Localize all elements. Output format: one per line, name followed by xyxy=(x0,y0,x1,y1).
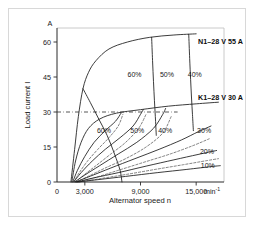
curve-n1-duty-60 xyxy=(83,89,122,182)
duty-upper-50: 50% xyxy=(160,71,174,78)
series-label-k1: K1–28 V 30 A xyxy=(198,93,243,102)
curve-k1-duty-50-dashed xyxy=(76,114,147,182)
duty-lower-40: 40% xyxy=(158,127,172,134)
x-axis-unit: min-1 xyxy=(204,186,220,196)
y-axis-unit: A xyxy=(48,19,53,28)
x-tick-label: 0 xyxy=(55,187,59,196)
curve-k1-duty-20 xyxy=(76,151,216,183)
x-tick-label: 9,000 xyxy=(132,187,150,196)
duty-upper-60: 60% xyxy=(128,71,142,78)
curve-k1-duty-10 xyxy=(77,166,220,182)
curve-n1-duty-40 xyxy=(189,34,194,130)
y-axis-title: Load current I xyxy=(23,82,32,129)
curve-k1-duty-30 xyxy=(76,126,211,182)
duty-lower-50: 50% xyxy=(130,127,144,134)
x-axis-ticks: 03,0009,00015,000 xyxy=(55,182,207,196)
curve-k1-duty-60-dashed xyxy=(74,114,123,182)
chart-series-group xyxy=(71,34,220,182)
duty-lower-10: 10% xyxy=(201,162,215,169)
x-axis-title: Alternator speed n xyxy=(109,196,171,205)
curve-k1-duty-50-solid xyxy=(74,110,144,182)
curve-n1-28v-55a-envelope xyxy=(71,34,196,182)
curve-k1-duty-30-dashed xyxy=(78,139,209,182)
chart-plot-area: 015304560 03,0009,00015,000 N1–28 V 55 A… xyxy=(0,0,254,225)
duty-lower-60: 60% xyxy=(97,127,111,134)
y-tick-label: 0 xyxy=(47,178,51,187)
y-axis-ticks: 015304560 xyxy=(43,38,57,187)
y-tick-label: 30 xyxy=(43,108,51,117)
series-label-n1: N1–28 V 55 A xyxy=(198,37,243,46)
chart-axes xyxy=(57,28,224,182)
duty-upper-40: 40% xyxy=(188,71,202,78)
figure-container: 015304560 03,0009,00015,000 N1–28 V 55 A… xyxy=(0,0,254,225)
x-tick-label: 3,000 xyxy=(76,187,94,196)
chart-annotations: N1–28 V 55 AK1–28 V 30 A60%50%40%60%50%4… xyxy=(97,37,243,169)
curve-n1-duty-50 xyxy=(152,37,157,135)
y-tick-label: 15 xyxy=(43,143,51,152)
plot-frame xyxy=(57,28,224,182)
y-tick-label: 60 xyxy=(43,38,51,47)
y-tick-label: 45 xyxy=(43,73,51,82)
duty-lower-30: 30% xyxy=(197,127,211,134)
duty-lower-20: 20% xyxy=(200,148,214,155)
